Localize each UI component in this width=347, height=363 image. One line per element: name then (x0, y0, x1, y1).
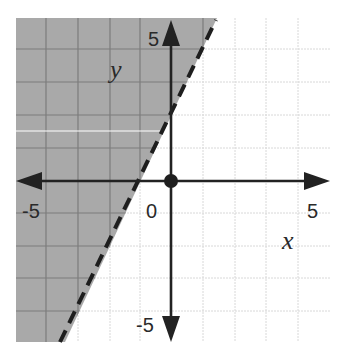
x-axis-label: x (281, 226, 294, 255)
y-min-label: -5 (136, 314, 154, 336)
y-max-label: 5 (148, 28, 159, 50)
origin-label: 0 (146, 200, 157, 222)
x-min-label: -5 (22, 200, 40, 222)
origin-point (164, 174, 178, 188)
inequality-graph: 5 -5 -5 5 0 y x (0, 0, 347, 363)
x-axis-right-arrow-icon (304, 172, 330, 190)
y-axis-label: y (107, 55, 122, 84)
y-axis-down-arrow-icon (162, 316, 180, 342)
x-max-label: 5 (307, 200, 318, 222)
